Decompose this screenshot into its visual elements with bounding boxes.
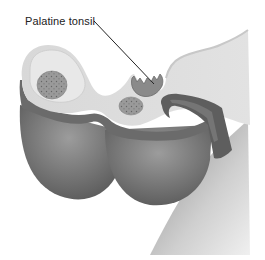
label-leader-line — [94, 21, 154, 84]
anatomy-figure: Palatine tonsil — [0, 0, 265, 260]
left-gland — [37, 71, 67, 99]
palatine-tonsil-label: Palatine tonsil — [25, 15, 95, 27]
middle-gland — [119, 97, 143, 115]
tonsil-cross-section-illustration — [0, 0, 265, 260]
